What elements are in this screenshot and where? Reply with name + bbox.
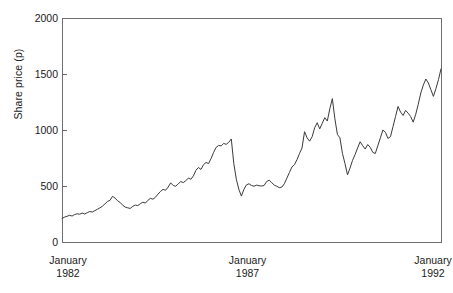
- y-axis-tick-marks: [62, 18, 67, 242]
- data-line-share-price: [62, 69, 441, 219]
- plot-area: [0, 0, 453, 293]
- plot-frame: [62, 18, 441, 242]
- share-price-chart: Share price (p) 0500100015002000 January…: [0, 0, 453, 293]
